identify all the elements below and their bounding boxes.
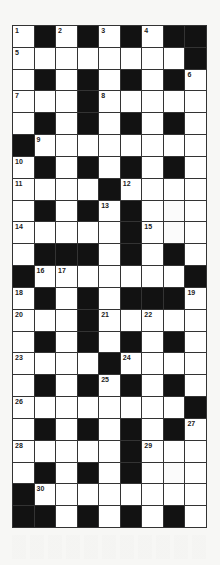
grid-cell[interactable] <box>56 288 77 309</box>
grid-cell[interactable] <box>164 201 185 222</box>
grid-cell[interactable] <box>56 70 77 91</box>
grid-cell[interactable] <box>56 91 77 112</box>
grid-cell[interactable]: 24 <box>121 353 142 374</box>
grid-cell[interactable] <box>185 135 206 156</box>
grid-cell[interactable] <box>185 244 206 265</box>
grid-cell[interactable]: 14 <box>13 222 34 243</box>
grid-cell[interactable] <box>185 353 206 374</box>
grid-cell[interactable] <box>164 91 185 112</box>
grid-cell[interactable] <box>99 244 120 265</box>
grid-cell[interactable]: 17 <box>56 266 77 287</box>
grid-cell[interactable] <box>99 113 120 134</box>
grid-cell[interactable]: 1 <box>13 26 34 47</box>
grid-cell[interactable]: 22 <box>142 310 163 331</box>
grid-cell[interactable] <box>13 70 34 91</box>
grid-cell[interactable] <box>78 266 99 287</box>
grid-cell[interactable] <box>35 441 56 462</box>
grid-cell[interactable] <box>35 91 56 112</box>
grid-cell[interactable] <box>185 179 206 200</box>
grid-cell[interactable] <box>13 244 34 265</box>
grid-cell[interactable] <box>164 463 185 484</box>
grid-cell[interactable]: 11 <box>13 179 34 200</box>
grid-cell[interactable] <box>164 266 185 287</box>
grid-cell[interactable] <box>142 201 163 222</box>
grid-cell[interactable] <box>99 397 120 418</box>
grid-cell[interactable]: 26 <box>13 397 34 418</box>
grid-cell[interactable] <box>56 48 77 69</box>
grid-cell[interactable] <box>185 91 206 112</box>
grid-cell[interactable] <box>185 201 206 222</box>
grid-cell[interactable] <box>121 266 142 287</box>
grid-cell[interactable]: 19 <box>185 288 206 309</box>
grid-cell[interactable] <box>142 157 163 178</box>
grid-cell[interactable] <box>35 310 56 331</box>
grid-cell[interactable] <box>13 332 34 353</box>
grid-cell[interactable] <box>164 441 185 462</box>
grid-cell[interactable] <box>56 419 77 440</box>
grid-cell[interactable] <box>185 222 206 243</box>
grid-cell[interactable] <box>99 484 120 505</box>
grid-cell[interactable] <box>99 135 120 156</box>
grid-cell[interactable]: 27 <box>185 419 206 440</box>
grid-cell[interactable] <box>142 266 163 287</box>
grid-cell[interactable] <box>56 484 77 505</box>
grid-cell[interactable] <box>121 48 142 69</box>
grid-cell[interactable] <box>164 397 185 418</box>
grid-cell[interactable] <box>164 310 185 331</box>
grid-cell[interactable] <box>35 179 56 200</box>
grid-cell[interactable] <box>78 48 99 69</box>
grid-cell[interactable] <box>185 332 206 353</box>
grid-cell[interactable] <box>142 397 163 418</box>
grid-cell[interactable] <box>99 266 120 287</box>
grid-cell[interactable] <box>99 222 120 243</box>
grid-cell[interactable] <box>99 419 120 440</box>
grid-cell[interactable] <box>142 419 163 440</box>
grid-cell[interactable] <box>56 179 77 200</box>
grid-cell[interactable]: 6 <box>185 70 206 91</box>
grid-cell[interactable]: 5 <box>13 48 34 69</box>
grid-cell[interactable] <box>56 397 77 418</box>
grid-cell[interactable] <box>13 375 34 396</box>
grid-cell[interactable] <box>185 113 206 134</box>
grid-cell[interactable] <box>164 179 185 200</box>
grid-cell[interactable] <box>164 48 185 69</box>
grid-cell[interactable]: 20 <box>13 310 34 331</box>
grid-cell[interactable] <box>56 222 77 243</box>
grid-cell[interactable]: 12 <box>121 179 142 200</box>
grid-cell[interactable] <box>164 222 185 243</box>
grid-cell[interactable] <box>56 463 77 484</box>
grid-cell[interactable] <box>121 310 142 331</box>
grid-cell[interactable] <box>78 397 99 418</box>
grid-cell[interactable] <box>142 113 163 134</box>
grid-cell[interactable] <box>142 332 163 353</box>
grid-cell[interactable] <box>13 419 34 440</box>
grid-cell[interactable] <box>99 288 120 309</box>
grid-cell[interactable] <box>78 484 99 505</box>
grid-cell[interactable] <box>142 463 163 484</box>
grid-cell[interactable] <box>99 463 120 484</box>
grid-cell[interactable] <box>35 222 56 243</box>
grid-cell[interactable] <box>185 157 206 178</box>
grid-cell[interactable]: 4 <box>142 26 163 47</box>
grid-cell[interactable]: 9 <box>35 135 56 156</box>
grid-cell[interactable] <box>164 484 185 505</box>
grid-cell[interactable] <box>13 201 34 222</box>
grid-cell[interactable] <box>78 179 99 200</box>
grid-cell[interactable] <box>142 484 163 505</box>
grid-cell[interactable] <box>142 135 163 156</box>
grid-cell[interactable] <box>56 201 77 222</box>
grid-cell[interactable]: 2 <box>56 26 77 47</box>
grid-cell[interactable] <box>142 506 163 527</box>
grid-cell[interactable] <box>121 397 142 418</box>
grid-cell[interactable] <box>56 157 77 178</box>
grid-cell[interactable] <box>78 135 99 156</box>
grid-cell[interactable]: 7 <box>13 91 34 112</box>
grid-cell[interactable] <box>142 179 163 200</box>
grid-cell[interactable] <box>121 135 142 156</box>
grid-cell[interactable] <box>78 222 99 243</box>
grid-cell[interactable] <box>99 48 120 69</box>
grid-cell[interactable] <box>56 441 77 462</box>
grid-cell[interactable]: 18 <box>13 288 34 309</box>
grid-cell[interactable] <box>99 332 120 353</box>
grid-cell[interactable] <box>78 441 99 462</box>
